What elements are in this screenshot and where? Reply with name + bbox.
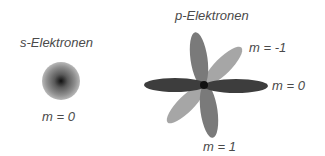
s-state-label-m0: m = 0 bbox=[42, 110, 75, 123]
p-lobe-m0-left bbox=[144, 78, 206, 92]
p-state-label-m0: m = 0 bbox=[272, 79, 305, 92]
s-electrons-title: s-Elektronen bbox=[20, 36, 93, 49]
p-electrons-title: p-Elektronen bbox=[175, 9, 249, 22]
p-state-label-m1: m = 1 bbox=[203, 140, 236, 153]
p-state-label-m-minus1: m = -1 bbox=[249, 41, 286, 54]
nucleus bbox=[200, 81, 208, 89]
s-orbital-sphere bbox=[42, 62, 80, 100]
p-lobe-m0-right bbox=[204, 79, 268, 93]
